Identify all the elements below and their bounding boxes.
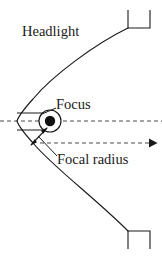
focal-radius-leader-line	[38, 136, 57, 156]
light-bulb	[39, 110, 61, 132]
reflected-ray	[40, 139, 158, 148]
headlight-label: Headlight	[22, 24, 79, 39]
focus-label: Focus	[56, 97, 91, 112]
top-notch-icon	[128, 10, 150, 28]
focus-point-dot	[45, 116, 55, 126]
reflected-ray-arrowhead-icon	[149, 139, 158, 148]
headlight-diagram: Headlight Focus Focal radius	[0, 0, 162, 259]
focal-radius-label: Focal radius	[57, 152, 128, 167]
parabola-lower-branch	[17, 121, 128, 231]
bottom-notch-icon	[128, 231, 150, 249]
